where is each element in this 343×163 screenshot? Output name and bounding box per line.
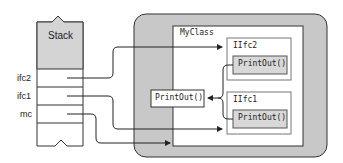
stack-title: Stack bbox=[48, 30, 73, 41]
stack-slot-ifc2-label: ifc2 bbox=[17, 73, 31, 83]
iifc2-label: IIfc2 bbox=[233, 41, 257, 50]
iifc1-method-label: PrintOut() bbox=[238, 113, 286, 122]
diagram-canvas bbox=[0, 0, 343, 163]
stack-slot-ifc1-label: ifc1 bbox=[17, 91, 31, 101]
stack-slot-mc-label: mc bbox=[20, 109, 32, 119]
iifc2-method-label: PrintOut() bbox=[238, 59, 286, 68]
myclass-label: MyClass bbox=[180, 28, 214, 37]
iifc1-label: IIfc1 bbox=[233, 95, 257, 104]
myclass-method-label: PrintOut() bbox=[155, 93, 203, 102]
